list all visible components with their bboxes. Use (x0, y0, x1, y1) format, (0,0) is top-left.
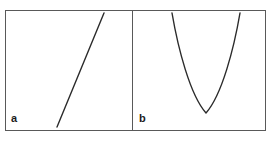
figure-container: a b (0, 0, 274, 141)
panel-b-label: b (139, 113, 146, 124)
panel-a-label: a (11, 113, 17, 124)
figure-background (0, 0, 274, 141)
figure-canvas (0, 0, 274, 141)
